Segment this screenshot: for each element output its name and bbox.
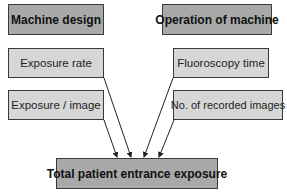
operation-of-machine-box: Operation of machine (162, 4, 272, 35)
recorded-images-box: No. of recorded images (173, 90, 283, 120)
operation-of-machine-label: Operation of machine (155, 13, 278, 27)
arrow-exposure-image (104, 120, 117, 157)
exposure-per-image-box: Exposure / image (8, 90, 104, 120)
fluoroscopy-time-box: Fluoroscopy time (173, 48, 269, 78)
machine-design-label: Machine design (11, 13, 101, 27)
machine-design-box: Machine design (8, 4, 104, 35)
fluoroscopy-time-label: Fluoroscopy time (177, 57, 265, 69)
arrow-recorded-images (159, 120, 174, 157)
exposure-rate-box: Exposure rate (8, 48, 104, 78)
exposure-per-image-label: Exposure / image (11, 99, 101, 111)
exposure-rate-label: Exposure rate (20, 57, 92, 69)
total-exposure-box: Total patient entrance exposure (56, 158, 218, 189)
total-exposure-label: Total patient entrance exposure (47, 167, 228, 181)
arrow-exposure-rate (104, 78, 131, 157)
recorded-images-label: No. of recorded images (171, 99, 285, 111)
arrow-fluoroscopy-time (144, 78, 173, 157)
